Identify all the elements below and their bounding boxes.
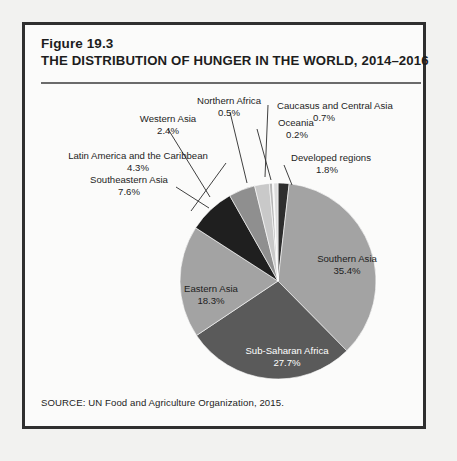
label-sub-saharan-africa-value: 27.7% bbox=[273, 357, 301, 368]
figure-box: Figure 19.3 THE DISTRIBUTION OF HUNGER I… bbox=[22, 22, 426, 429]
callout-caucasus-name: Caucasus and Central Asia bbox=[277, 100, 393, 111]
callout-oceania-value: 0.2% bbox=[286, 129, 308, 140]
leader-northern-africa bbox=[230, 112, 247, 183]
callout-latin-america-name: Latin America and the Caribbean bbox=[68, 150, 208, 161]
source-note: SOURCE: UN Food and Agriculture Organiza… bbox=[41, 397, 284, 408]
leader-western-asia bbox=[168, 129, 210, 197]
leader-developed-regions bbox=[284, 165, 292, 185]
callout-oceania-name: Oceania bbox=[278, 117, 314, 128]
callout-northern-africa-name: Northern Africa bbox=[197, 95, 262, 106]
callout-western-asia-value: 2.4% bbox=[157, 125, 179, 136]
callout-developed-regions-name: Developed regions bbox=[291, 152, 371, 163]
label-eastern-asia-value: 18.3% bbox=[197, 295, 225, 306]
callout-labels: Northern Africa 0.5% Caucasus and Centra… bbox=[68, 95, 393, 197]
callout-latin-america-value: 4.3% bbox=[127, 162, 149, 173]
callout-developed-regions-value: 1.8% bbox=[316, 164, 338, 175]
label-sub-saharan-africa-name: Sub-Saharan Africa bbox=[245, 345, 329, 356]
leader-southeastern-asia bbox=[176, 187, 209, 208]
callout-western-asia-name: Western Asia bbox=[140, 113, 197, 124]
callout-southeastern-asia-value: 7.6% bbox=[118, 186, 140, 197]
pie-chart-svg: Southern Asia 35.4% Sub-Saharan Africa 2… bbox=[25, 25, 423, 426]
pie-chart: Southern Asia 35.4% Sub-Saharan Africa 2… bbox=[25, 25, 423, 426]
label-eastern-asia-name: Eastern Asia bbox=[184, 283, 239, 294]
label-southern-asia-name: Southern Asia bbox=[317, 253, 377, 264]
callout-northern-africa-value: 0.5% bbox=[218, 107, 240, 118]
leader-oceania bbox=[257, 129, 271, 180]
callout-southeastern-asia-name: Southeastern Asia bbox=[90, 174, 169, 185]
label-southern-asia-value: 35.4% bbox=[333, 265, 361, 276]
callout-caucasus-value: 0.7% bbox=[313, 112, 335, 123]
